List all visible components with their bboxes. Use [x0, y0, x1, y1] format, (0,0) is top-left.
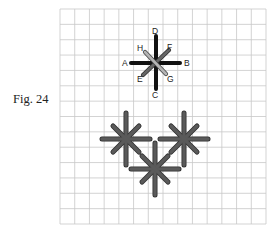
point-label-d: D	[152, 26, 158, 36]
point-label-e: E	[137, 74, 143, 84]
point-label-b: B	[184, 58, 190, 68]
labeled-star-diagram: ABCDEFGH	[122, 26, 190, 100]
point-label-f: F	[167, 42, 172, 52]
point-label-a: A	[122, 58, 128, 68]
graph-paper-grid	[60, 9, 266, 224]
point-label-c: C	[152, 90, 158, 100]
point-label-g: G	[167, 74, 174, 84]
point-label-h: H	[137, 43, 143, 53]
stitch-diagram: ABCDEFGH	[0, 0, 279, 237]
